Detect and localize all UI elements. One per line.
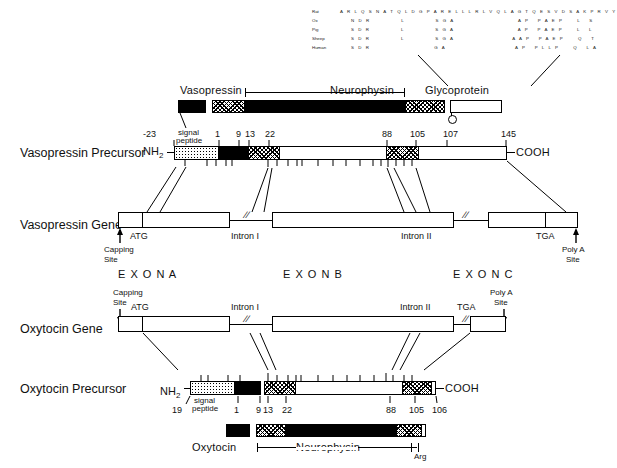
bottom-span-tick-arg	[418, 443, 419, 452]
bottom-span-tick-right	[411, 443, 412, 452]
bottom-arg-segment	[421, 424, 426, 437]
bottom-neurophysin-hatch-left	[256, 424, 286, 437]
oxytocin-products-bar	[226, 424, 426, 437]
bottom-label-arg: Arg	[414, 452, 426, 461]
bottom-span-gap-cover	[296, 447, 358, 450]
bottom-neurophysin-core-segment	[285, 424, 397, 437]
bottom-neurophysin-hatch-right	[396, 424, 422, 437]
bottom-span-tick-left	[257, 443, 258, 452]
oxytocin-peptide-segment	[226, 424, 250, 437]
bottom-label-oxytocin: Oxytocin	[192, 441, 236, 453]
